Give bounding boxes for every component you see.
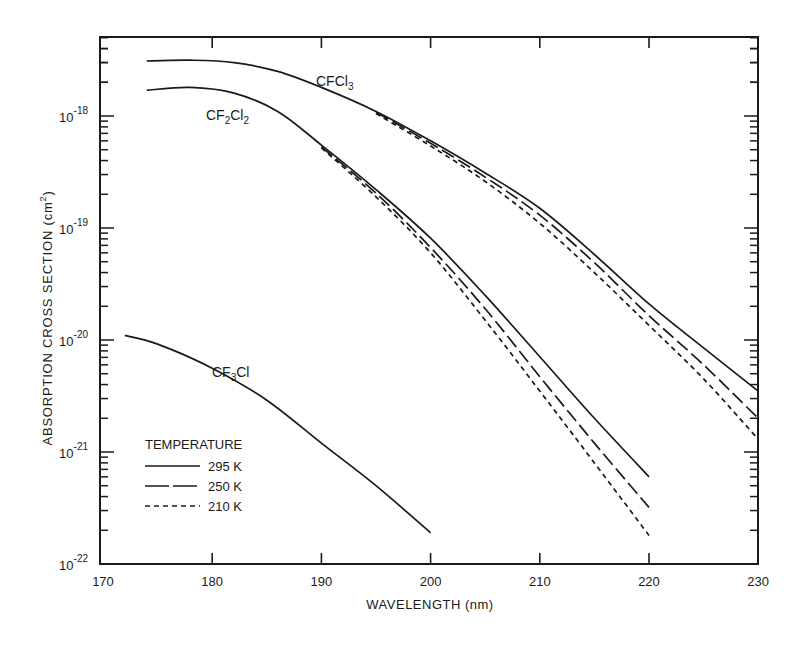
x-tick-label: 200 bbox=[420, 574, 442, 589]
x-axis-tick-labels: 170180190200210220230 bbox=[92, 574, 769, 589]
x-tick-label: 210 bbox=[529, 574, 551, 589]
y-axis-label-end: ) bbox=[40, 190, 55, 195]
curve-cf3cl-295k bbox=[125, 335, 431, 532]
compound-labels: CFCl3CF2Cl2CF3Cl bbox=[206, 73, 354, 383]
curve-cf2cl2-210k bbox=[321, 148, 649, 536]
legend-label: 250 K bbox=[208, 479, 242, 494]
absorption-cross-section-chart: 170180190200210220230 10-2210-2110-2010-… bbox=[0, 0, 803, 649]
y-axis-label: ABSORPTION CROSS SECTION (cm2) bbox=[38, 190, 55, 445]
compound-label-cfcl3: CFCl3 bbox=[316, 73, 354, 92]
curve-cfcl3-210k bbox=[376, 114, 758, 440]
x-tick-label: 190 bbox=[311, 574, 333, 589]
x-tick-label: 180 bbox=[201, 574, 223, 589]
legend-label: 295 K bbox=[208, 459, 242, 474]
compound-label-cf2cl2: CF2Cl2 bbox=[206, 107, 249, 126]
plot-frame bbox=[100, 37, 758, 564]
legend-label: 210 K bbox=[208, 499, 242, 514]
y-tick-label: 10-18 bbox=[59, 105, 88, 125]
y-tick-label: 10-19 bbox=[59, 217, 88, 237]
y-tick-label: 10-21 bbox=[59, 441, 88, 461]
y-axis-label-main: ABSORPTION CROSS SECTION (cm bbox=[40, 201, 55, 445]
x-axis-label: WAVELENGTH (nm) bbox=[366, 597, 493, 612]
curve-cfcl3-250k bbox=[376, 112, 758, 418]
x-axis-ticks bbox=[212, 37, 649, 564]
curve-cf2cl2-250k bbox=[321, 147, 649, 508]
legend-title: TEMPERATURE bbox=[145, 437, 243, 452]
y-tick-label: 10-20 bbox=[59, 329, 88, 349]
legend: TEMPERATURE295 K250 K210 K bbox=[145, 437, 243, 514]
x-tick-label: 220 bbox=[638, 574, 660, 589]
y-axis-ticks bbox=[100, 38, 758, 531]
x-tick-label: 170 bbox=[92, 574, 114, 589]
plot-border bbox=[100, 37, 758, 564]
y-tick-label: 10-22 bbox=[59, 553, 88, 573]
x-tick-label: 230 bbox=[747, 574, 769, 589]
y-axis-tick-labels: 10-2210-2110-2010-1910-18 bbox=[59, 105, 88, 573]
compound-label-cf3cl: CF3Cl bbox=[212, 364, 249, 383]
